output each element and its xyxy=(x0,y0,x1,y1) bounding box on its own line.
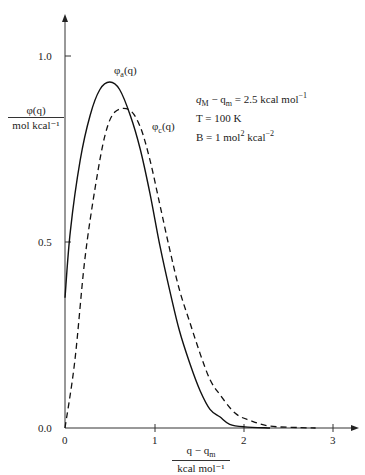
x-label-num-sub: m xyxy=(209,450,215,459)
ann1-minus-q: − q xyxy=(209,93,226,105)
x-axis-label: q − qm kcal mol⁻¹ xyxy=(172,444,230,475)
x-axis-label-denominator: kcal mol⁻¹ xyxy=(172,461,230,475)
y-axis-label-denominator: mol kcal⁻¹ xyxy=(8,118,64,132)
y-tick-label-0.5: 0.5 xyxy=(38,236,52,248)
annotation-temperature: T = 100 K xyxy=(196,111,307,126)
series-phi-c-line xyxy=(65,108,316,428)
annotation-B: B = 1 mol2 kcal−2 xyxy=(196,126,307,145)
annotation-q-range: qM − qm = 2.5 kcal mol−1 xyxy=(196,88,307,111)
y-tick-label-0.0: 0.0 xyxy=(38,422,52,434)
x-tick-label-0: 0 xyxy=(62,434,68,446)
series-label-phi-a: φa(q) xyxy=(114,64,137,81)
series-a-arg: (q) xyxy=(124,64,137,76)
y-axis-label: φ(q) mol kcal⁻¹ xyxy=(8,104,64,132)
ann1-value: = 2.5 kcal mol xyxy=(232,93,298,105)
x-tick-label-3: 3 xyxy=(330,434,336,446)
x-tick-label-2: 2 xyxy=(241,434,247,446)
ann1-sup: −1 xyxy=(298,91,307,100)
x-axis-label-numerator: q − qm xyxy=(172,444,230,461)
ann3-value: B = 1 mol xyxy=(196,131,240,143)
series-label-phi-c: φc(q) xyxy=(152,120,175,137)
parameter-annotations: qM − qm = 2.5 kcal mol−1 T = 100 K B = 1… xyxy=(196,88,307,145)
ann3-sup2: −2 xyxy=(265,129,274,138)
ann1-sub-M: M xyxy=(202,99,209,108)
x-tick-label-1: 1 xyxy=(152,434,158,446)
x-label-num-text: q − q xyxy=(187,444,210,456)
y-axis-label-numerator: φ(q) xyxy=(8,104,64,118)
series-c-arg: (q) xyxy=(162,120,175,132)
y-tick-label-1.0: 1.0 xyxy=(38,50,52,62)
ann3-unit: kcal xyxy=(244,131,265,143)
